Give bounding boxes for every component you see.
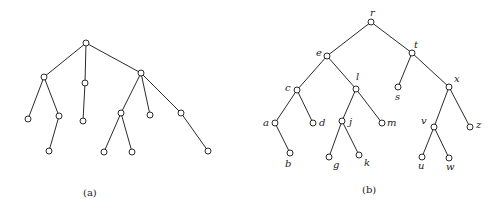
edges-layer xyxy=(28,22,470,158)
node-label: g xyxy=(333,159,339,170)
node-label: j xyxy=(347,116,352,127)
node-label: a xyxy=(263,117,269,128)
tree-edge xyxy=(297,56,327,90)
node-label: w xyxy=(446,161,455,172)
tree-node xyxy=(178,110,184,116)
tree-node-e xyxy=(324,53,330,59)
caption-a: (a) xyxy=(83,187,97,198)
tree-node xyxy=(41,74,47,80)
tree-node-g xyxy=(326,154,332,160)
node-label: c xyxy=(285,82,291,93)
node-label: t xyxy=(414,39,419,50)
tree-node-k xyxy=(356,152,362,158)
tree-node xyxy=(83,40,89,46)
tree-node xyxy=(147,112,153,118)
tree-edge xyxy=(44,77,59,116)
tree-node-d xyxy=(310,120,316,126)
tree-node xyxy=(25,116,31,122)
tree-edge xyxy=(104,113,121,152)
tree-node xyxy=(138,70,144,76)
tree-node-m xyxy=(379,120,385,126)
tree-edge xyxy=(327,56,356,89)
nodes-layer xyxy=(25,19,473,161)
tree-node-b xyxy=(287,150,293,156)
tree-edge xyxy=(434,127,449,158)
tree-diagram: retclsxadjmvzbgkuw (a) (b) xyxy=(0,0,501,211)
node-label: e xyxy=(316,47,322,58)
tree-edge xyxy=(275,123,290,153)
tree-edge xyxy=(121,73,141,113)
tree-node-z xyxy=(467,124,473,130)
tree-node xyxy=(46,148,52,154)
tree-edge xyxy=(85,43,86,83)
node-label: u xyxy=(418,160,424,171)
tree-node-s xyxy=(395,84,401,90)
tree-edge xyxy=(275,90,297,123)
node-label: m xyxy=(387,117,396,128)
caption-b: (b) xyxy=(362,184,376,195)
tree-edge xyxy=(121,113,132,152)
tree-node xyxy=(205,148,211,154)
tree-edge xyxy=(49,116,59,151)
node-label: z xyxy=(475,119,482,130)
tree-edge xyxy=(141,73,150,115)
tree-node-l xyxy=(353,86,359,92)
tree-edge xyxy=(327,22,371,56)
node-label: r xyxy=(370,7,376,18)
tree-node-r xyxy=(368,19,374,25)
tree-edge xyxy=(398,53,412,87)
tree-edge xyxy=(86,43,141,73)
node-label: b xyxy=(285,158,291,169)
tree-edge xyxy=(434,87,449,127)
node-label: v xyxy=(421,115,427,126)
tree-node-j xyxy=(339,118,345,124)
tree-node-c xyxy=(294,87,300,93)
tree-node-a xyxy=(272,120,278,126)
tree-edge xyxy=(297,90,313,123)
tree-node xyxy=(56,113,62,119)
tree-edge xyxy=(412,53,449,87)
node-label: s xyxy=(395,91,400,102)
tree-node-v xyxy=(431,124,437,130)
tree-node xyxy=(118,110,124,116)
node-label: k xyxy=(364,157,370,168)
tree-edge xyxy=(44,43,86,77)
tree-node xyxy=(129,149,135,155)
tree-edge xyxy=(422,127,434,157)
tree-node-t xyxy=(409,50,415,56)
node-label: l xyxy=(356,71,359,82)
tree-edge xyxy=(28,77,44,119)
tree-node-x xyxy=(446,84,452,90)
tree-edge xyxy=(181,113,208,151)
tree-edge xyxy=(356,89,382,123)
node-label: x xyxy=(454,73,460,84)
tree-edge xyxy=(329,121,342,157)
tree-node xyxy=(82,80,88,86)
tree-edge xyxy=(449,87,470,127)
tree-node xyxy=(101,149,107,155)
tree-node xyxy=(80,118,86,124)
node-label: d xyxy=(319,117,325,128)
tree-edge xyxy=(83,83,85,121)
tree-edge xyxy=(141,73,181,113)
tree-edge xyxy=(371,22,412,53)
